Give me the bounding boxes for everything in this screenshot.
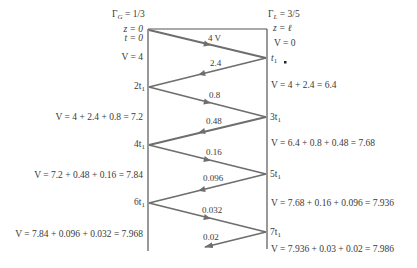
right-voltage-3: V = 7.68 + 0.16 + 0.096 = 7.936 [271, 198, 394, 208]
wave-label-3: 0.8 [209, 90, 221, 100]
wave-label-4: 0.48 [206, 116, 222, 126]
wave-label-2: 2.4 [210, 58, 222, 68]
right-voltage-4: V = 7.936 + 0.03 + 0.02 = 7.986 [271, 244, 394, 254]
wave-label-6: 0.096 [203, 173, 224, 183]
left-voltage-4: V = 7.84 + 0.096 + 0.032 = 7.968 [15, 229, 143, 239]
gamma-g-label: ΓG = 1/3 [112, 9, 145, 21]
time-label-4t1: 4t1 [134, 139, 145, 151]
time-label-t1: t1 [271, 53, 278, 65]
left-voltage-2: V = 4 + 2.4 + 0.8 = 7.2 [56, 112, 144, 122]
left-voltage-1: V = 4 [121, 52, 143, 62]
v-initial-right: V = 0 [274, 38, 296, 48]
time-label-2t1: 2t1 [134, 81, 145, 93]
left-voltage-3: V = 7.2 + 0.48 + 0.16 = 7.84 [34, 170, 143, 180]
bounce-diagram: ΓG = 1/3 z = 0 t = 0 ΓL = 3/5 z = ℓ V = … [0, 0, 417, 268]
wave-label-7: 0.032 [202, 205, 222, 215]
time-label-3t1: 3t1 [270, 112, 281, 124]
dot-marker [284, 61, 287, 64]
wave-label-5: 0.16 [206, 147, 222, 157]
time-label-6t1: 6t1 [134, 197, 145, 209]
t-zero-label: t = 0 [124, 33, 143, 43]
right-voltage-2: V = 6.4 + 0.8 + 0.48 = 7.68 [271, 138, 375, 148]
arrow-icon [197, 128, 205, 135]
time-label-5t1: 5t1 [270, 169, 281, 181]
wave-label-8: 0.02 [203, 232, 219, 242]
wave-label-1: 4 V [208, 33, 222, 43]
wave-segment-2 [149, 58, 266, 87]
right-voltage-1: V = 4 + 2.4 = 6.4 [271, 80, 337, 90]
z-ell-label: z = ℓ [272, 23, 292, 33]
gamma-l-label: ΓL = 3/5 [268, 9, 300, 21]
time-label-7t1: 7t1 [270, 227, 281, 239]
